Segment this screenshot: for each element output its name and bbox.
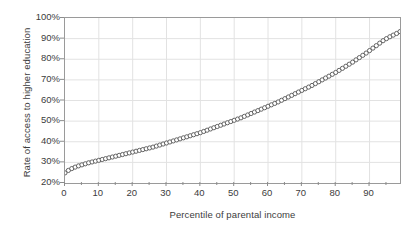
x-axis-tick-label: 90 [354, 188, 384, 198]
x-axis-tick-label: 80 [320, 188, 350, 198]
y-axis-tick-label: 100% [16, 12, 60, 22]
data-series-line [65, 32, 400, 173]
x-axis-tick-label: 50 [218, 188, 248, 198]
x-axis-tick-label: 60 [252, 188, 282, 198]
x-axis-tick-label: 40 [184, 188, 214, 198]
y-axis-tick-label: 80% [16, 53, 60, 63]
x-axis-tick-label: 20 [117, 188, 147, 198]
plot-area [64, 17, 401, 184]
x-axis-tick-label: 70 [286, 188, 316, 198]
horizontal-gridlines [65, 39, 400, 163]
plot-canvas [65, 18, 400, 183]
data-series-markers [65, 30, 400, 175]
y-axis-tick-label: 20% [16, 177, 60, 187]
y-axis-tick-label: 90% [16, 33, 60, 43]
x-axis-tick-label: 10 [83, 188, 113, 198]
x-axis-title: Percentile of parental income [64, 209, 401, 220]
chart-figure: Rate of access to higher education 20%30… [0, 0, 416, 235]
x-axis-tick-label: 30 [151, 188, 181, 198]
y-axis-tick-label: 50% [16, 115, 60, 125]
x-axis-tick-label: 0 [49, 188, 79, 198]
y-axis-tick-label: 40% [16, 136, 60, 146]
y-axis-tick-label: 30% [16, 156, 60, 166]
y-axis-tick-label: 70% [16, 74, 60, 84]
y-axis-tick-label: 60% [16, 95, 60, 105]
